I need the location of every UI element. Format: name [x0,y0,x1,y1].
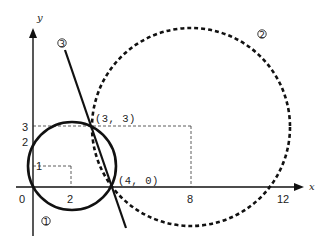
x-axis-arrow-icon [294,183,304,191]
line-3 [65,50,126,228]
origin-label: 0 [19,193,25,205]
coordinate-diagram: x y 0 2 8 12 1 2 3 (3, 3) (4, 0) 1 2 3 [0,0,326,251]
y-tick-2: 2 [22,136,28,148]
point-label-3-3: (3, 3) [95,113,136,125]
marker-1-text: 1 [43,217,49,227]
x-tick-2: 2 [67,193,73,205]
x-tick-8: 8 [187,193,193,205]
x-tick-12: 12 [277,193,289,205]
marker-3-text: 3 [59,39,65,49]
y-tick-3: 3 [22,121,28,133]
y-axis-label: y [36,12,43,23]
curve-markers: 1 2 3 [42,30,266,227]
point-label-4-0: (4, 0) [118,175,159,187]
marker-2-text: 2 [259,30,265,40]
guide-lines [33,126,191,187]
x-axis-label: x [309,181,315,192]
tick-labels: 2 8 12 1 2 3 [22,121,289,205]
y-axis-arrow-icon [29,28,37,38]
